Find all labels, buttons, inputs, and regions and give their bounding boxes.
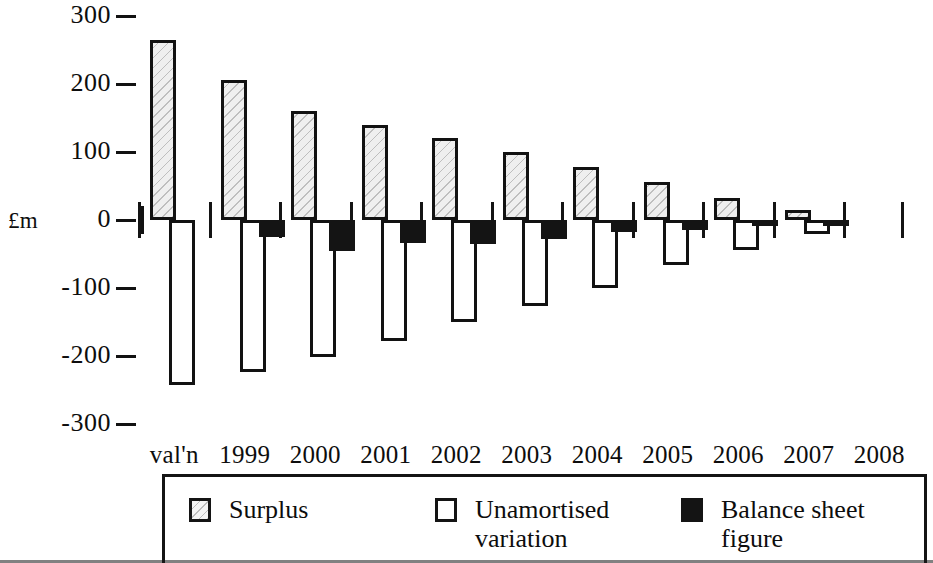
bar-surplus xyxy=(291,111,317,220)
x-axis-group-separator xyxy=(901,202,904,238)
x-axis-group-separator xyxy=(702,202,705,238)
bar-surplus xyxy=(644,182,670,220)
chart-legend: Surplus Unamortised variation Balance sh… xyxy=(162,474,927,563)
bar-surplus xyxy=(362,125,388,220)
chart-plot-area: £m 3002001000-100-200-300 val'n199920002… xyxy=(0,0,933,470)
bar-unamortised-variation xyxy=(240,220,266,372)
x-axis-group-separator xyxy=(632,202,635,238)
bar-surplus xyxy=(573,167,599,220)
bar-group xyxy=(853,0,924,440)
x-axis-group-separator xyxy=(350,202,353,238)
bar-surplus xyxy=(432,138,458,220)
x-axis-group-separator xyxy=(561,202,564,238)
x-axis-group-separator xyxy=(420,202,423,238)
surplus-swatch-icon xyxy=(189,498,211,522)
bar-surplus xyxy=(150,40,176,220)
x-axis-group-separator xyxy=(209,202,212,238)
bar-surplus xyxy=(714,198,740,220)
bar-surplus xyxy=(785,210,811,220)
legend-label-surplus: Surplus xyxy=(229,495,308,524)
legend-item-balance-sheet-figure: Balance sheet figure xyxy=(681,495,865,553)
unamortised-variation-swatch-icon xyxy=(435,498,457,522)
bar-unamortised-variation xyxy=(169,220,195,385)
balance-sheet-figure-swatch-icon xyxy=(681,498,703,522)
legend-label-balance-sheet-figure: Balance sheet figure xyxy=(721,495,865,553)
legend-item-unamortised-variation: Unamortised variation xyxy=(435,495,609,553)
x-axis-label-2008: 2008 xyxy=(835,440,924,470)
x-axis-labels: val'n19992000200120022003200420052006200… xyxy=(0,440,933,472)
x-axis-group-separator xyxy=(843,202,846,238)
bar-surplus xyxy=(503,152,529,220)
x-axis-group-separator xyxy=(138,202,141,238)
bar-groups xyxy=(0,0,933,470)
legend-label-unamortised-variation: Unamortised variation xyxy=(475,495,609,553)
bar-surplus xyxy=(221,80,247,220)
x-axis-group-separator xyxy=(773,202,776,238)
x-axis-group-separator xyxy=(279,202,282,238)
legend-item-surplus: Surplus xyxy=(189,495,308,524)
x-axis-group-separator xyxy=(491,202,494,238)
